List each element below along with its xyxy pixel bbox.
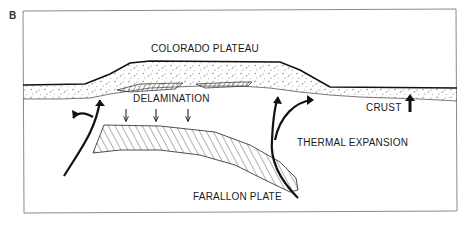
farallon-plate-slab: [93, 125, 298, 192]
farallon-plate-label: FARALLON PLATE: [193, 192, 282, 202]
thermal-expansion-label: THERMAL EXPANSION: [297, 138, 408, 148]
colorado-plateau-label: COLORADO PLATEAU: [151, 44, 259, 54]
delamination-arrows: [126, 109, 188, 121]
colorado-plateau-delamination-diagram: B COLORADO PLATEAU DELAMINATION CRUST TH…: [0, 0, 476, 228]
delamination-label: DELAMINATION: [133, 94, 210, 104]
crust-label: CRUST: [366, 103, 401, 113]
panel-label: B: [9, 10, 16, 21]
crust-layer: [23, 61, 457, 101]
